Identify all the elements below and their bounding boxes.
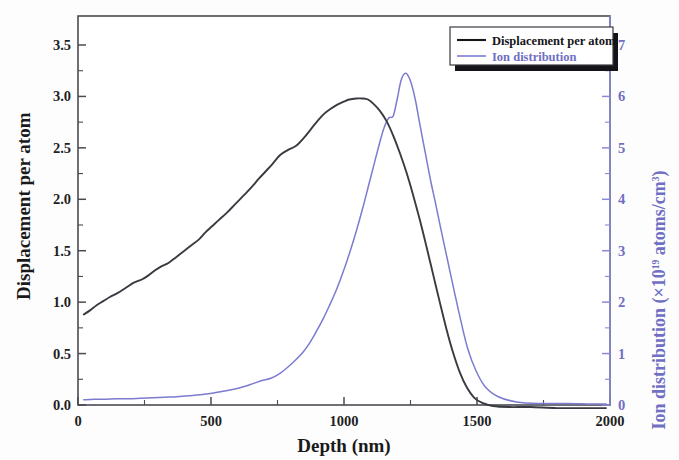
y-axis-left-tick-label: 2.5 [53, 140, 71, 156]
y-axis-right-tick-label: 5 [618, 140, 625, 156]
plot-frame [78, 16, 610, 405]
y-axis-right-tick-label: 1 [618, 346, 625, 362]
x-axis-tick-label: 500 [200, 413, 222, 429]
y-axis-right-title-main: Ion distribution (×10 [649, 269, 670, 429]
x-axis-tick-label: 1000 [330, 413, 359, 429]
y-axis-right-tick-label: 2 [618, 294, 625, 310]
y-axis-right-tick-label: 0 [618, 397, 625, 413]
chart-svg: 0.00.51.01.52.02.53.03.5 01234567 050010… [0, 0, 679, 460]
y-axis-left-tick-label: 3.0 [53, 88, 71, 104]
y-axis-right-title-tail: atoms/cm [649, 181, 669, 259]
y-axis-left-tick-label: 1.0 [53, 294, 71, 310]
y-axis-right-tick-label: 6 [618, 88, 625, 104]
y-axis-left-tick-label: 3.5 [53, 37, 71, 53]
y-axis-right-title-exponent: 19 [651, 259, 661, 269]
y-axis-right-title-close: ) [649, 170, 670, 176]
x-axis-title: Depth (nm) [297, 435, 390, 457]
y-axis-left-tick-label: 2.0 [53, 191, 71, 207]
y-axis-right-tick-label: 7 [618, 37, 625, 53]
x-axis-tick-label: 1500 [463, 413, 492, 429]
y-axis-left-tick-label: 0.5 [53, 346, 71, 362]
figure-container: 0.00.51.01.52.02.53.03.5 01234567 050010… [0, 0, 679, 460]
y-axis-left-tick-label: 0.0 [53, 397, 71, 413]
legend: Displacement per atom Ion distribution [450, 27, 618, 71]
y-axis-left-tick-label: 1.5 [53, 243, 71, 259]
legend-label-displacement-per-atom: Displacement per atom [492, 34, 616, 48]
legend-label-ion-distribution: Ion distribution [492, 50, 576, 64]
y-axis-right-tick-label: 4 [618, 191, 625, 207]
y-axis-right-title: Ion distribution (×1019 atoms/cm3) [649, 170, 670, 429]
x-axis-tick-label: 2000 [596, 413, 625, 429]
y-axis-left-title: Displacement per atom [13, 112, 34, 300]
y-axis-right-tick-label: 3 [618, 243, 625, 259]
x-axis-tick-label: 0 [74, 413, 81, 429]
